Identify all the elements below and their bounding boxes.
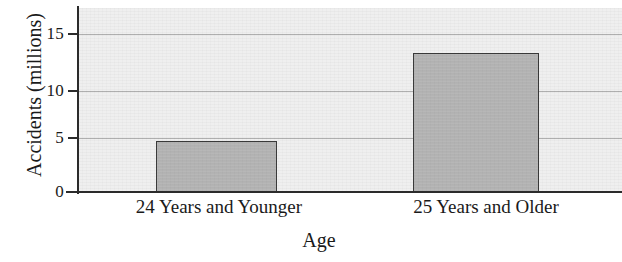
category-label-24-years-and-younger: 24 Years and Younger <box>96 196 342 218</box>
x-axis-line <box>66 191 622 193</box>
y-tick-15 <box>68 33 79 35</box>
bar-24-years-and-younger <box>156 141 277 192</box>
gridline-5 <box>78 138 622 139</box>
y-tick-5 <box>68 137 79 139</box>
x-axis-title-text: Age <box>302 229 335 251</box>
x-axis-title: Age <box>0 228 622 252</box>
bar-chart-figure: 15 10 5 0 24 Years and Younger 25 Years … <box>0 0 622 262</box>
y-tick-10 <box>68 90 79 92</box>
y-tick-0 <box>68 191 79 193</box>
plot-area <box>78 8 622 192</box>
gridline-15 <box>78 34 622 35</box>
category-label-25-years-and-older: 25 Years and Older <box>380 196 592 218</box>
y-axis-title: Accidents (millions) <box>23 0 45 195</box>
bar-25-years-and-older <box>413 53 539 192</box>
gridline-10 <box>78 91 622 92</box>
